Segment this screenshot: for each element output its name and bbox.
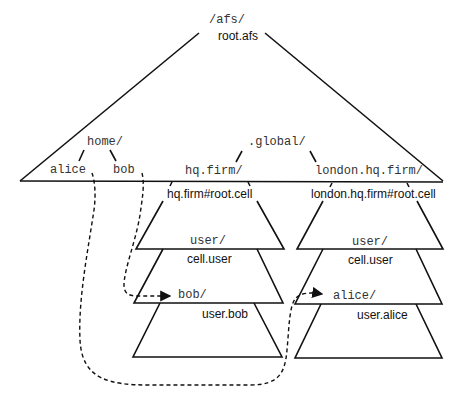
bob-home-mount-label: bob/ [178,288,207,302]
global-dir-label: .global/ [248,135,306,149]
user-bob-label: user.bob [202,307,248,321]
tree-branch [110,150,116,161]
alice-link-label: alice [50,163,86,177]
root-mount-label: /afs/ [209,13,245,27]
tree-branch [310,151,316,162]
london-mount-label: london.hq.firm/ [315,164,423,178]
hq-mount-label: hq.firm/ [185,164,243,178]
root-volume-triangle [20,33,443,182]
london-cell-stack: london.hq.firm#root.cell user/ cell.user… [295,187,443,358]
alice-home-mount-label: alice/ [333,289,376,303]
home-dir-label: home/ [87,135,123,149]
alice-symlink-arrow [80,173,322,385]
tree-branch [236,151,242,162]
london-cell-user-label: cell.user [348,253,393,267]
tree-branch [79,150,84,161]
london-user-mount-label: user/ [352,235,388,249]
hq-user-mount-label: user/ [190,234,226,248]
user-alice-label: user.alice [357,308,408,322]
hq-root-cell-label: hq.firm#root.cell [167,187,252,201]
hq-cell-stack: hq.firm#root.cell user/ cell.user bob/ u… [133,187,284,357]
hq-cell-user-label: cell.user [187,252,232,266]
london-root-cell-label: london.hq.firm#root.cell [311,187,436,201]
afs-namespace-diagram: /afs/ root.afs home/ alice bob .global/ … [0,0,461,404]
root-volume-label: root.afs [218,29,258,43]
bob-link-label: bob [113,163,135,177]
